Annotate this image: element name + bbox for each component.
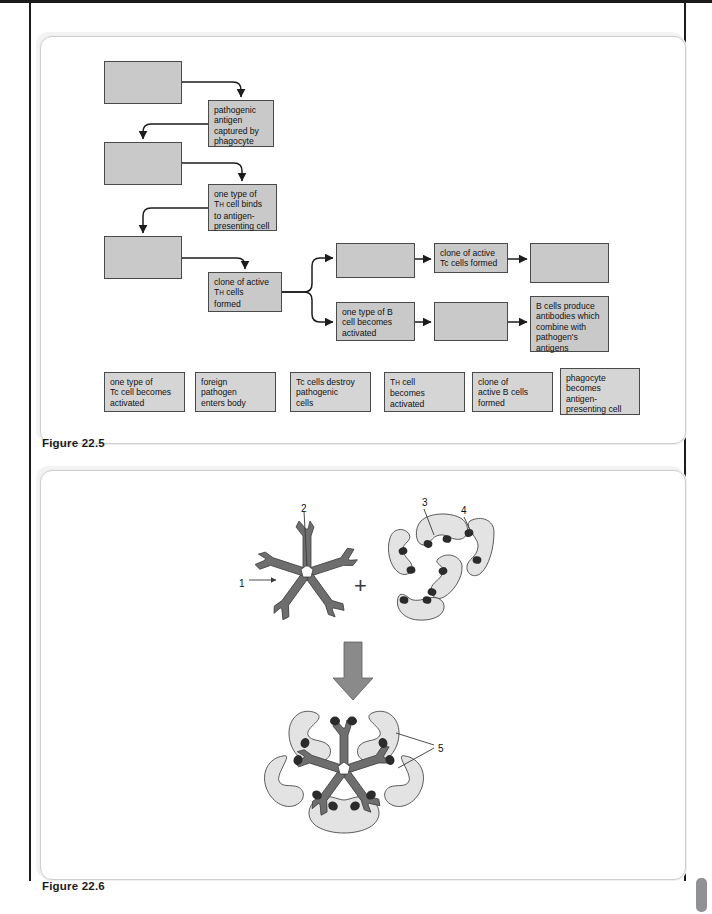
flow-box[interactable]: one type of Bcell becomesactivated bbox=[336, 302, 415, 341]
flow-box[interactable]: clone of activeTc cells formed bbox=[434, 243, 508, 273]
flow-box-blank[interactable] bbox=[530, 243, 609, 283]
figure-22-6-panel bbox=[40, 470, 686, 880]
diagram-number-label: 5 bbox=[438, 743, 444, 754]
subscript-h: H bbox=[219, 289, 224, 296]
answer-option-box[interactable]: Tc cells destroypathogeniccells bbox=[290, 372, 371, 412]
page-root: pathogenicantigencaptured byphagocyteone… bbox=[0, 0, 712, 914]
diagram-number-label: 1 bbox=[239, 578, 245, 589]
figure-22-6-caption: Figure 22.6 bbox=[42, 880, 105, 892]
answer-option-box[interactable]: phagocytebecomesantigen-presenting cell bbox=[560, 368, 640, 415]
flow-box[interactable]: B cells produceantibodies whichcombine w… bbox=[530, 296, 609, 352]
page-edge-tab[interactable] bbox=[696, 878, 707, 912]
answer-option-box[interactable]: foreignpathogenenters body bbox=[195, 372, 276, 412]
subscript-h: H bbox=[219, 201, 224, 208]
flow-box-blank[interactable] bbox=[104, 61, 182, 104]
page-top-rule bbox=[0, 0, 712, 3]
page-left-rule bbox=[29, 3, 31, 881]
flow-box-blank[interactable] bbox=[104, 142, 182, 185]
flow-box-blank[interactable] bbox=[336, 243, 415, 278]
flow-box[interactable]: clone of activeTH cellsformed bbox=[208, 272, 282, 312]
answer-option-box[interactable]: one type ofTc cell becomesactivated bbox=[104, 372, 185, 412]
plus-sign: + bbox=[354, 573, 367, 599]
flow-box[interactable]: pathogenicantigencaptured byphagocyte bbox=[208, 100, 274, 147]
answer-option-box[interactable]: TH cellbecomesactivated bbox=[384, 372, 465, 412]
diagram-number-label: 2 bbox=[301, 503, 307, 514]
flow-box-blank[interactable] bbox=[434, 302, 508, 341]
flow-box-blank[interactable] bbox=[104, 236, 182, 279]
subscript-h: H bbox=[395, 379, 400, 386]
diagram-number-label: 4 bbox=[461, 505, 467, 516]
diagram-number-label: 3 bbox=[422, 497, 428, 508]
figure-22-5-caption: Figure 22.5 bbox=[42, 437, 105, 449]
answer-option-box[interactable]: clone ofactive B cellsformed bbox=[472, 372, 553, 412]
flow-box[interactable]: one type ofTH cell bindsto antigen-prese… bbox=[208, 184, 277, 231]
